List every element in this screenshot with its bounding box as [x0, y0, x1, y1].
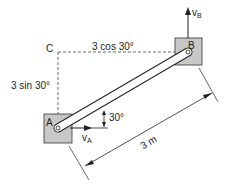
dim-arrowhead-a-icon [85, 160, 94, 166]
dim-ext-b [199, 68, 218, 102]
linkage-diagram: vA vB 30° 3 m C A B 3 cos 30° 3 sin 30° [0, 0, 229, 192]
pin-a [56, 126, 60, 130]
horizontal-label: 3 cos 30° [92, 41, 134, 52]
vertical-label: 3 sin 30° [11, 80, 50, 91]
point-b-label: B [188, 40, 195, 51]
length-label: 3 m [139, 133, 159, 151]
angle-arrowhead-up-icon [102, 110, 106, 115]
angle-label: 30° [109, 112, 124, 123]
arrowhead-b-icon [185, 7, 191, 15]
velocity-a-label: vA [82, 132, 92, 144]
dim-ext-a [69, 146, 89, 180]
dim-arrowhead-b-icon [203, 93, 212, 99]
angle-arrowhead-down-icon [102, 122, 106, 127]
point-c-label: C [46, 43, 53, 54]
velocity-b-label: vB [192, 7, 202, 19]
point-a-label: A [46, 117, 53, 128]
